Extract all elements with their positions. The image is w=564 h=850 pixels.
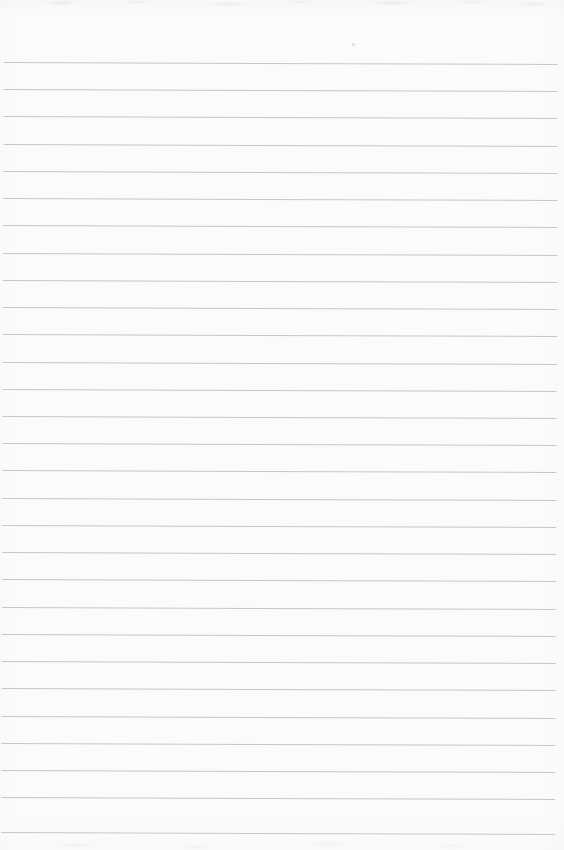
ruled-line xyxy=(3,362,557,365)
ruled-line xyxy=(1,743,555,746)
ruled-line xyxy=(3,334,557,337)
ruled-line xyxy=(3,144,557,147)
ruled-line xyxy=(3,307,557,310)
ruled-line xyxy=(2,498,556,501)
ruled-line xyxy=(3,280,557,283)
ruled-line xyxy=(2,607,556,610)
ruled-line xyxy=(1,797,555,800)
ruled-line xyxy=(3,253,557,256)
ruled-line xyxy=(3,198,557,201)
ruled-line xyxy=(2,525,556,528)
ruled-line xyxy=(2,661,556,664)
ruled-line xyxy=(4,116,558,119)
ruled-line xyxy=(4,62,558,65)
scanned-page xyxy=(0,0,564,850)
ruled-line xyxy=(3,416,557,419)
ruled-line xyxy=(1,770,555,773)
ruled-line-group xyxy=(0,0,564,850)
ruled-line xyxy=(3,171,557,174)
ruled-line xyxy=(2,552,556,555)
ruled-line xyxy=(1,716,555,719)
ruled-line xyxy=(1,832,555,835)
ruled-line xyxy=(3,389,557,392)
ruled-line xyxy=(2,634,556,637)
ruled-line xyxy=(3,225,557,228)
ruled-line xyxy=(2,688,556,691)
ruled-line xyxy=(2,470,556,473)
ruled-line xyxy=(2,443,556,446)
ruled-line xyxy=(2,579,556,582)
ruled-line xyxy=(4,89,558,92)
